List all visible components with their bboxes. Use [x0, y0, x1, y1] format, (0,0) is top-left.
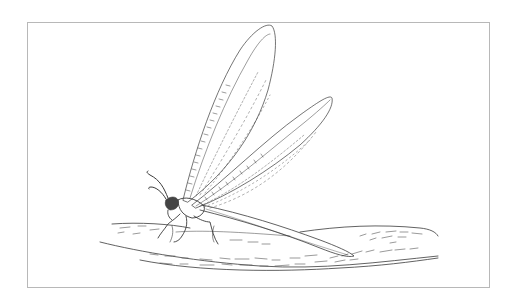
- branch: [100, 223, 438, 270]
- antlion-illustration: [0, 0, 514, 305]
- hind-wing: [192, 97, 332, 208]
- fore-wing: [183, 25, 275, 202]
- antennae: [147, 171, 168, 199]
- abdomen: [200, 205, 354, 257]
- legs: [158, 214, 218, 244]
